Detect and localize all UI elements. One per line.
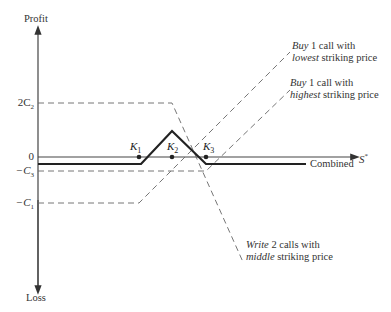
s-star-label: S* [359, 150, 368, 165]
k3-dot [204, 155, 209, 160]
k2-dot [170, 155, 175, 160]
k1-label: K1 [130, 140, 141, 155]
k3-label: K3 [203, 140, 214, 155]
y-label-zero: 0 [4, 150, 34, 162]
buy-highest-line [38, 90, 290, 171]
y-label-neg-c1: −C1 [4, 196, 34, 211]
write-middle-line [38, 103, 243, 262]
buy-lowest-line [38, 52, 290, 203]
y-label-2c2: 2C2 [4, 96, 34, 111]
k2-label: K2 [167, 140, 178, 155]
y-label-neg-c3: −C3 [4, 164, 34, 179]
combined-label: Combined [310, 158, 354, 170]
profit-label: Profit [24, 13, 48, 25]
loss-label: Loss [26, 292, 46, 304]
buy-lowest-annotation: Buy 1 call with lowest striking price [292, 40, 377, 64]
buy-highest-annotation: Buy 1 call with highest striking price [290, 77, 379, 101]
k1-dot [137, 155, 142, 160]
write-middle-annotation: Write 2 calls with middle striking price [246, 239, 333, 263]
